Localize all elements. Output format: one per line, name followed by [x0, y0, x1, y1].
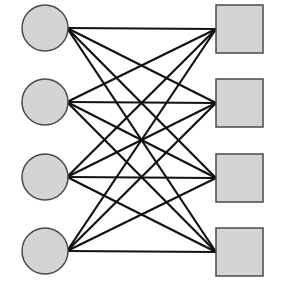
square-node-s1	[216, 5, 263, 53]
circle-node-c3	[22, 154, 68, 200]
square-node-s2	[216, 79, 263, 127]
circle-node-c1	[22, 5, 68, 51]
square-node-group	[216, 5, 263, 276]
edge-group	[67, 28, 216, 252]
circle-node-group	[22, 5, 68, 274]
square-node-s4	[216, 228, 263, 276]
edge-c4-s4	[67, 251, 216, 252]
edge-c1-s1	[67, 28, 216, 29]
diagram-canvas	[0, 0, 283, 298]
circle-node-c4	[22, 228, 68, 274]
circle-node-c2	[22, 79, 68, 125]
bipartite-diagram	[0, 0, 283, 298]
square-node-s3	[216, 154, 263, 202]
